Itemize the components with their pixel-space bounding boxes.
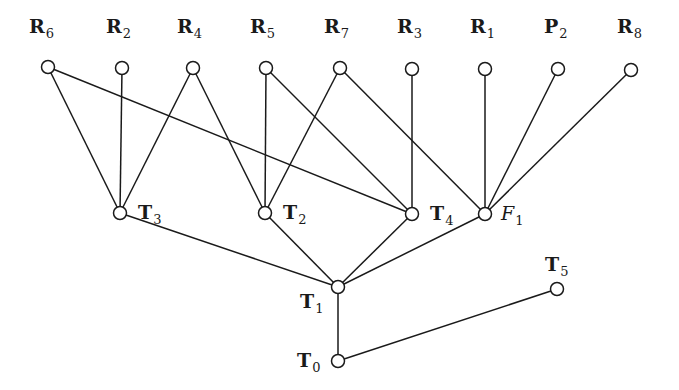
label-main: T bbox=[545, 253, 559, 275]
label-r4: R4 bbox=[177, 15, 202, 41]
edge-t0-t5 bbox=[338, 289, 557, 361]
edge-r7-t2 bbox=[265, 68, 340, 213]
node-r2 bbox=[116, 62, 129, 75]
label-main: R bbox=[397, 15, 413, 37]
node-t0 bbox=[332, 355, 345, 368]
edge-r5-t4 bbox=[266, 68, 412, 214]
edge-r2-t3 bbox=[120, 68, 122, 213]
node-r6 bbox=[42, 61, 55, 74]
label-main: R bbox=[470, 15, 486, 37]
edge-f1-t1 bbox=[338, 214, 485, 287]
node-t2 bbox=[259, 207, 272, 220]
label-main: T bbox=[430, 202, 444, 224]
node-layer bbox=[42, 61, 638, 368]
label-r3: R3 bbox=[397, 15, 422, 41]
label-subscript: 1 bbox=[487, 26, 495, 41]
label-main: T bbox=[297, 349, 311, 371]
label-main: F bbox=[500, 202, 515, 224]
label-r2: R2 bbox=[106, 15, 131, 41]
label-f1: F1 bbox=[500, 202, 523, 228]
edge-t4-t1 bbox=[338, 214, 412, 287]
label-main: R bbox=[324, 15, 340, 37]
edge-p2-f1 bbox=[485, 69, 558, 214]
label-main: R bbox=[29, 15, 45, 37]
label-main: R bbox=[106, 15, 122, 37]
label-t5: T5 bbox=[545, 253, 568, 279]
node-r5 bbox=[260, 62, 273, 75]
node-t3 bbox=[114, 207, 127, 220]
node-r3 bbox=[406, 63, 419, 76]
edge-r6-t4 bbox=[48, 67, 412, 214]
label-r7: R7 bbox=[324, 15, 349, 41]
label-r1: R1 bbox=[470, 15, 495, 41]
label-subscript: 3 bbox=[153, 212, 161, 227]
label-subscript: 5 bbox=[267, 26, 275, 41]
label-subscript: 6 bbox=[46, 26, 54, 41]
label-t0: T0 bbox=[297, 349, 320, 375]
edge-r4-t3 bbox=[120, 68, 193, 213]
label-main: T bbox=[283, 201, 297, 223]
node-t4 bbox=[406, 208, 419, 221]
edge-r6-t3 bbox=[48, 67, 120, 213]
label-r5: R5 bbox=[250, 15, 275, 41]
label-subscript: 5 bbox=[560, 264, 568, 279]
label-subscript: 0 bbox=[312, 360, 320, 375]
label-main: R bbox=[617, 15, 633, 37]
node-r7 bbox=[334, 62, 347, 75]
label-subscript: 2 bbox=[123, 26, 131, 41]
edge-r4-t2 bbox=[193, 68, 265, 213]
label-main: T bbox=[300, 290, 314, 312]
label-subscript: 8 bbox=[634, 26, 642, 41]
label-subscript: 7 bbox=[341, 26, 349, 41]
label-subscript: 1 bbox=[515, 213, 523, 228]
label-t2: T2 bbox=[283, 201, 306, 227]
edge-r8-f1 bbox=[485, 70, 631, 214]
node-r8 bbox=[625, 64, 638, 77]
label-t4: T4 bbox=[430, 202, 453, 228]
node-r4 bbox=[187, 62, 200, 75]
node-t1 bbox=[332, 281, 345, 294]
label-t1: T1 bbox=[300, 290, 323, 316]
label-r8: R8 bbox=[617, 15, 642, 41]
node-f1 bbox=[479, 208, 492, 221]
node-t5 bbox=[551, 283, 564, 296]
label-main: T bbox=[138, 201, 152, 223]
label-main: P bbox=[544, 15, 558, 37]
label-subscript: 4 bbox=[194, 26, 202, 41]
label-r6: R6 bbox=[29, 15, 54, 41]
edge-layer bbox=[48, 67, 631, 361]
label-subscript: 2 bbox=[298, 212, 306, 227]
label-p2: P2 bbox=[544, 15, 568, 41]
label-main: R bbox=[250, 15, 266, 37]
label-subscript: 1 bbox=[315, 301, 323, 316]
edge-r5-t2 bbox=[265, 68, 266, 213]
node-r1 bbox=[479, 63, 492, 76]
label-subscript: 4 bbox=[445, 213, 453, 228]
hasse-diagram: R6R2R4R5R7R3R1P2R8T3T2T4F1T1T5T0 bbox=[0, 0, 679, 390]
label-subscript: 3 bbox=[414, 26, 422, 41]
node-p2 bbox=[552, 63, 565, 76]
label-subscript: 2 bbox=[559, 26, 567, 41]
label-main: R bbox=[177, 15, 193, 37]
